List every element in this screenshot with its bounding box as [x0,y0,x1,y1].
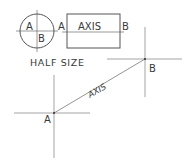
oblique-axis-label: AXIS [85,81,108,100]
circle-label-b: B [38,33,45,44]
circle-end-view [16,10,58,52]
technical-drawing: A B A AXIS B HALF SIZE B A AXIS [0,0,193,164]
rect-label-b: B [122,21,129,32]
point-b-label: B [149,63,156,74]
rect-axis-label: AXIS [78,21,101,32]
point-a-marker [53,112,55,114]
rect-label-a: A [58,21,65,32]
point-a-label: A [44,114,51,125]
point-b-marker [144,58,146,60]
scale-note: HALF SIZE [30,57,84,68]
circle-label-a: A [26,21,33,32]
